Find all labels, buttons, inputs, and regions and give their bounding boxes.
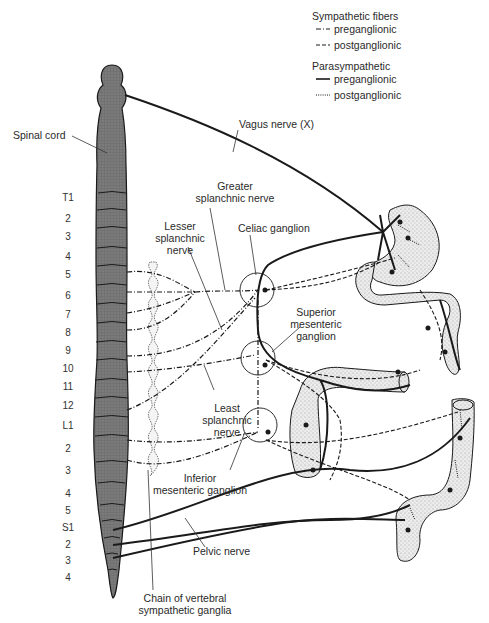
segment-label: S1 (56, 522, 80, 533)
label-vagus-nerve: Vagus nerve (X) (239, 118, 314, 130)
sympathetic-chain (148, 262, 158, 476)
segment-label: 4 (56, 488, 80, 499)
transverse-colon (290, 367, 405, 477)
label-greater-splanchnic: Greater splanchnic nerve (180, 180, 290, 204)
segment-label: 2 (56, 213, 80, 224)
segment-label: 6 (56, 290, 80, 301)
segment-label: 3 (56, 555, 80, 566)
legend-sympathetic-title: Sympathetic fibers (312, 10, 398, 22)
segment-label: 5 (56, 505, 80, 516)
segment-label: 8 (56, 327, 80, 338)
segment-label: 4 (56, 251, 80, 262)
segment-label: 10 (56, 363, 80, 374)
segment-label: 12 (56, 400, 80, 411)
label-celiac-ganglion: Celiac ganglion (238, 222, 310, 234)
spinal-cord (94, 65, 129, 598)
segment-label: 5 (56, 269, 80, 280)
sigmoid-cut-end (453, 400, 473, 410)
legend-para-pre: preganglionic (334, 73, 396, 85)
label-least-splanchnic: Least splanchnic nerve (192, 402, 262, 438)
legend-symp-post: postganglionic (334, 39, 401, 51)
legend-symp-pre: preganglionic (334, 23, 396, 35)
legend-parasympathetic-title: Parasympathetic (312, 60, 390, 72)
label-pelvic-nerve: Pelvic nerve (193, 545, 250, 557)
segment-label: T1 (56, 192, 80, 203)
segment-label: 2 (56, 539, 80, 550)
label-lesser-splanchnic: Lesser splanchnic nerve (145, 220, 215, 256)
label-superior-mesenteric: Superior mesenteric ganglion (280, 306, 352, 342)
organs (290, 205, 474, 561)
segment-label: 2 (56, 443, 80, 454)
label-spinal-cord: Spinal cord (13, 129, 66, 141)
segment-label: 3 (56, 231, 80, 242)
legend-para-post: postganglionic (334, 89, 401, 101)
segment-label: L1 (56, 420, 80, 431)
segment-label: 11 (56, 381, 80, 392)
label-chain-of-ganglia: Chain of vertebral sympathetic ganglia (130, 592, 240, 616)
label-inferior-mesenteric: Inferior mesenteric ganglion (150, 472, 250, 496)
segment-label: 7 (56, 309, 80, 320)
descending-colon (396, 399, 474, 562)
segment-label: 4 (56, 572, 80, 583)
segment-label: 3 (56, 465, 80, 476)
segment-label: 9 (56, 345, 80, 356)
